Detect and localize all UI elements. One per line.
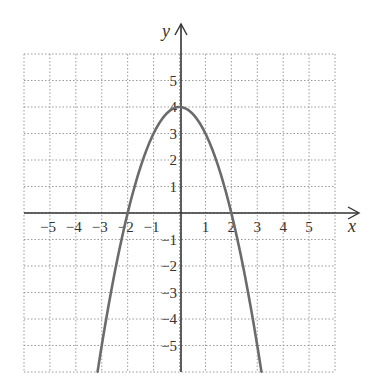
y-axis-label: y	[160, 21, 170, 41]
x-tick-label: −3	[92, 219, 108, 235]
y-tick-label: 5	[170, 73, 178, 89]
y-tick-label: −1	[161, 232, 177, 248]
x-tick-label: 3	[254, 219, 262, 235]
y-tick-label: 2	[170, 152, 178, 168]
y-tick-label: −5	[161, 338, 177, 354]
y-tick-label: 3	[170, 126, 178, 142]
x-tick-label: 4	[279, 219, 287, 235]
x-tick-label: 1	[202, 219, 210, 235]
parabola-graph: x y −5−4−3−2−112345 54321−1−2−3−4−5	[0, 0, 385, 391]
x-axis-label: x	[347, 216, 356, 236]
x-tick-label: −4	[66, 219, 82, 235]
x-tick-label: −1	[144, 219, 160, 235]
y-tick-label: −2	[161, 258, 177, 274]
x-tick-label: 5	[305, 219, 313, 235]
y-tick-label: −3	[161, 285, 177, 301]
x-tick-label: −5	[40, 219, 56, 235]
y-tick-label: 1	[170, 179, 178, 195]
y-tick-label: −4	[161, 311, 177, 327]
